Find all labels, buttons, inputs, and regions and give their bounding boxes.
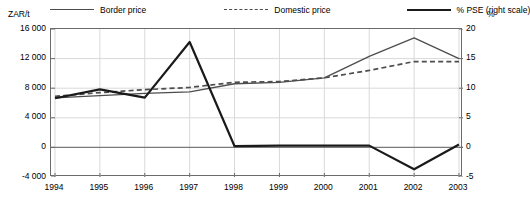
y-axis-right-tick-label: 10	[466, 83, 492, 92]
x-axis: 1994199519961997199819992000200120022003	[0, 182, 507, 196]
y-axis-right-tick-label: 15	[466, 53, 492, 62]
y-axis-right: 20151050-5	[466, 0, 507, 204]
y-axis-right-tick-label: 20	[466, 24, 492, 33]
x-axis-tick-label: 1997	[169, 182, 209, 192]
y-axis-left-tick-label: -4 000	[4, 172, 46, 181]
legend-label-border-price: Border price	[100, 5, 146, 15]
x-axis-tick-label: 1996	[124, 182, 164, 192]
x-axis-tick-label: 2002	[393, 182, 433, 192]
x-axis-tick-label: 2001	[348, 182, 388, 192]
x-axis-tick-label: 1995	[79, 182, 119, 192]
legend-item-border-price: Border price	[50, 2, 146, 18]
chart-legend: Border price Domestic price % PSE (right…	[50, 2, 462, 18]
x-axis-tick-label: 2000	[303, 182, 343, 192]
x-axis-tick-label: 2003	[438, 182, 478, 192]
dashed-line-icon	[224, 5, 268, 15]
y-axis-left-tick-label: 0	[4, 142, 46, 151]
series-line-domestic-price	[55, 62, 459, 97]
y-axis-left: 16 00012 0008 0004 0000-4 000	[0, 0, 46, 204]
series-line-pse-right-scale	[55, 42, 459, 169]
y-axis-left-tick-label: 4 000	[4, 112, 46, 121]
legend-item-domestic-price: Domestic price	[224, 2, 330, 18]
series-line-border-price	[55, 38, 459, 98]
legend-label-domestic-price: Domestic price	[274, 5, 330, 15]
plot-area	[50, 28, 462, 176]
x-axis-tick-label: 1998	[214, 182, 254, 192]
y-axis-left-tick-label: 12 000	[4, 53, 46, 62]
solid-thick-line-icon	[407, 5, 451, 15]
y-axis-right-tick-label: 0	[466, 142, 492, 151]
x-axis-tick-label: 1999	[258, 182, 298, 192]
y-axis-right-tick-label: 5	[466, 112, 492, 121]
plot-svg	[51, 29, 463, 177]
solid-thin-line-icon	[50, 5, 94, 15]
y-axis-left-tick-label: 8 000	[4, 83, 46, 92]
y-axis-right-tick-label: -5	[466, 172, 492, 181]
y-axis-left-tick-label: 16 000	[4, 24, 46, 33]
x-axis-tick-label: 1994	[34, 182, 74, 192]
